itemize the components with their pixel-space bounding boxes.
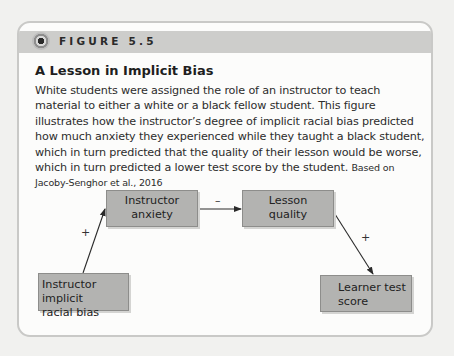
node-line: quality bbox=[243, 208, 333, 222]
edge-sign-plus: + bbox=[81, 226, 90, 239]
node-line: Lesson bbox=[243, 194, 333, 208]
node-line: Learner test bbox=[338, 281, 411, 295]
node-instructor-anxiety: Instructor anxiety bbox=[106, 190, 198, 227]
edge-bias-to-anxiety bbox=[83, 209, 105, 273]
node-line: Instructor bbox=[107, 194, 197, 208]
edge-sign-plus: + bbox=[361, 231, 370, 244]
node-line: racial bias bbox=[42, 306, 128, 320]
edge-sign-minus: – bbox=[215, 194, 221, 207]
node-learner-test-score: Learner test score bbox=[320, 275, 412, 312]
node-line: Instructor implicit bbox=[42, 278, 128, 306]
node-line: anxiety bbox=[107, 208, 197, 222]
node-instructor-implicit-racial-bias: Instructor implicit racial bias bbox=[38, 273, 129, 311]
node-line: score bbox=[338, 295, 411, 309]
node-lesson-quality: Lesson quality bbox=[242, 190, 334, 227]
